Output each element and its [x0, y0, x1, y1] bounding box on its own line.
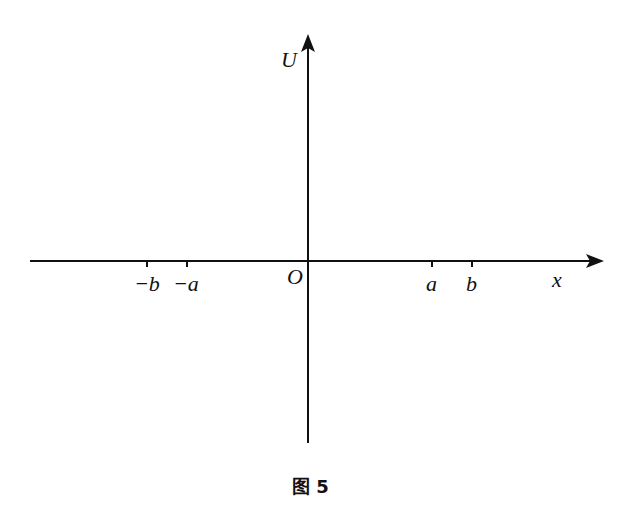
x-axis-label: x: [551, 267, 562, 292]
origin-label: O: [287, 264, 303, 289]
tick-label-neg-a: −a: [173, 271, 199, 296]
tick-label-a: a: [426, 271, 437, 296]
coordinate-diagram: −b −a a b O x U 图 5: [0, 0, 631, 523]
tick-label-neg-b: −b: [134, 271, 160, 296]
tick-label-b: b: [466, 271, 477, 296]
figure-caption: 图 5: [292, 476, 329, 497]
y-axis-label: U: [281, 47, 299, 72]
